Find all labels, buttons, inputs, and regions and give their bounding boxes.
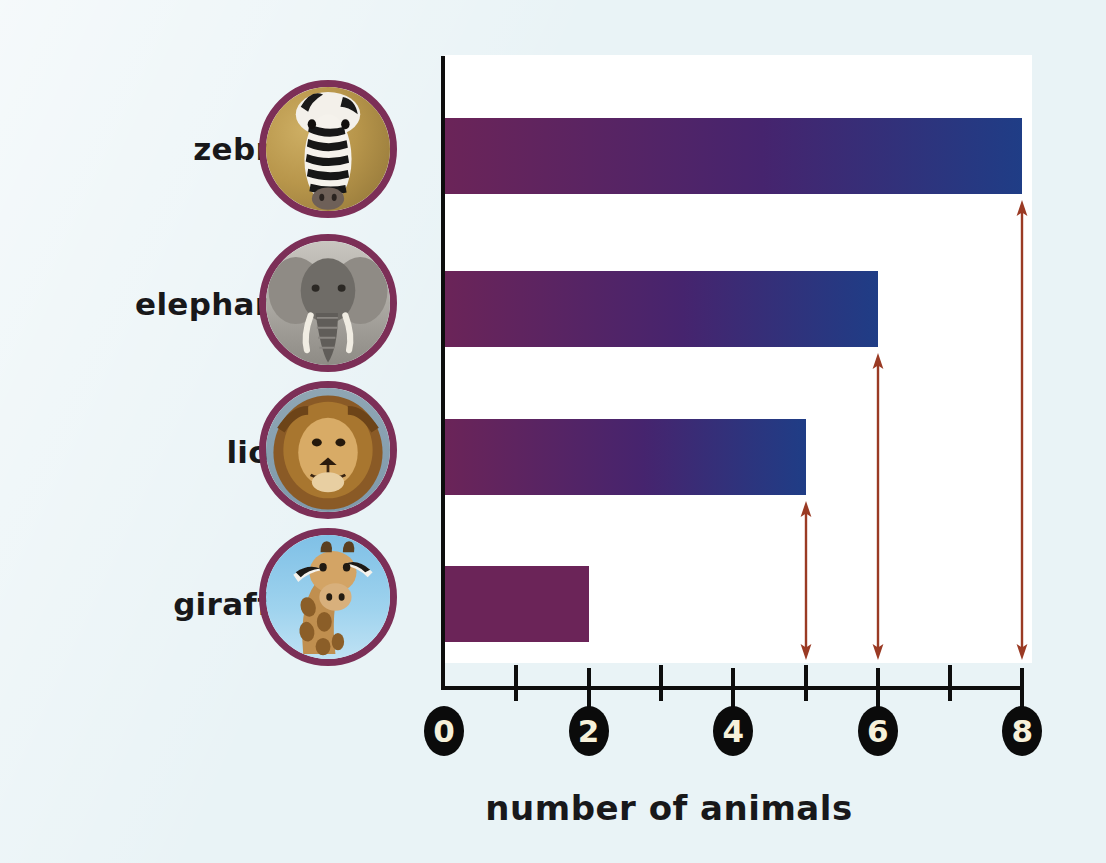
x-tick-3: [659, 665, 663, 701]
elephant-photo: [259, 234, 397, 372]
x-axis-label-0: 0: [424, 706, 464, 756]
lion-photo: [259, 381, 397, 519]
measure-arrow-lions: [795, 501, 817, 660]
worksheet-page: 02468 zebraselephantslionsgiraffes numbe…: [0, 0, 1106, 863]
x-tick-6: [876, 668, 880, 708]
x-tick-1: [514, 665, 518, 701]
x-tick-8: [1020, 668, 1024, 708]
measure-arrow-elephants: [867, 353, 889, 660]
measure-arrow-zebras: [1011, 200, 1033, 660]
giraffe-photo: [259, 528, 397, 666]
x-tick-7: [948, 665, 952, 701]
x-axis-label-8: 8: [1002, 706, 1042, 756]
bar-lions: [444, 419, 806, 495]
bar-zebras: [444, 118, 1022, 194]
x-tick-2: [587, 668, 591, 708]
x-axis-title: number of animals: [0, 788, 1106, 828]
zebra-photo: [259, 80, 397, 218]
x-axis-label-6: 6: [858, 706, 898, 756]
x-tick-5: [804, 665, 808, 701]
x-axis-title-text: number of animals: [253, 788, 852, 828]
y-axis-line: [441, 56, 445, 689]
x-axis-label-4: 4: [713, 706, 753, 756]
x-tick-4: [731, 668, 735, 708]
bar-giraffes: [444, 566, 589, 642]
x-axis-label-2: 2: [569, 706, 609, 756]
bar-elephants: [444, 271, 878, 347]
